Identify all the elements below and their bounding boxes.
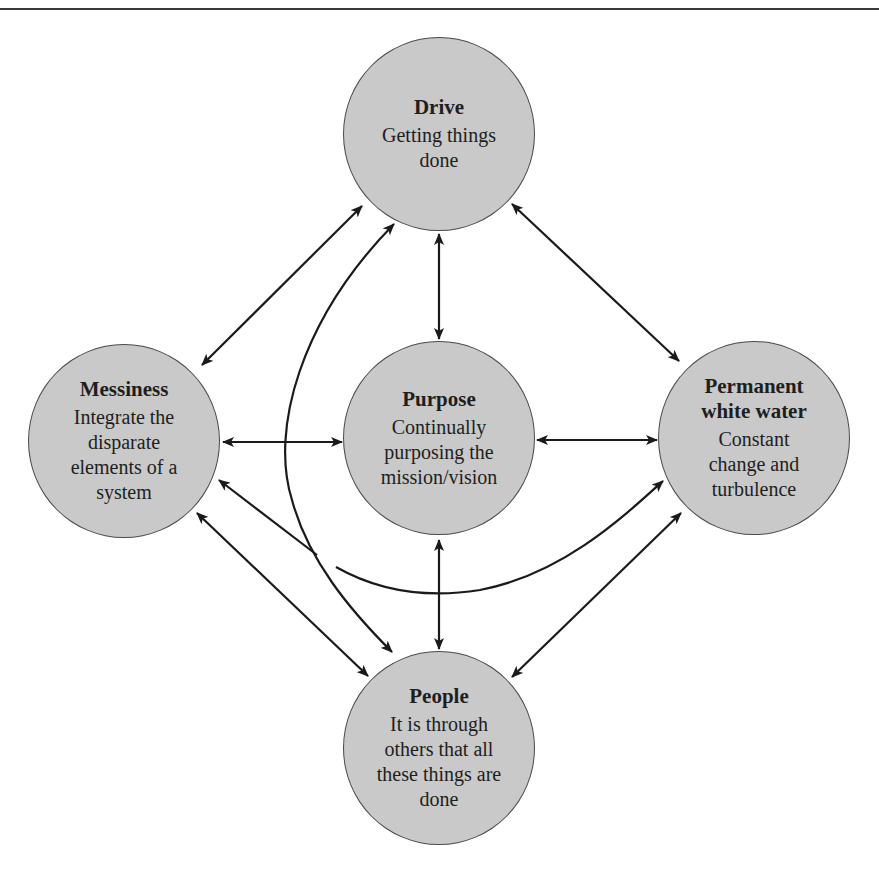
desc-line: disparate: [71, 430, 178, 455]
node-people-desc: It is through others that all these thin…: [369, 712, 509, 812]
node-drive-desc: Getting things done: [374, 123, 504, 173]
desc-line: mission/vision: [381, 465, 498, 490]
edge-messiness-people: [197, 513, 368, 676]
desc-line: turbulence: [709, 477, 800, 502]
node-drive-title: Drive: [414, 95, 464, 120]
edge-drive-messiness: [202, 206, 362, 365]
node-messiness: Messiness Integrate the disparate elemen…: [28, 344, 220, 538]
desc-line: done: [382, 148, 496, 173]
node-people: People It is through others that all the…: [343, 651, 535, 845]
desc-line: Getting things: [382, 123, 496, 148]
desc-line: Continually: [381, 415, 498, 440]
desc-line: purposing the: [381, 440, 498, 465]
desc-line: Integrate the: [71, 405, 178, 430]
node-drive: Drive Getting things done: [343, 37, 535, 231]
title-line: Permanent: [701, 374, 807, 399]
node-messiness-desc: Integrate the disparate elements of a sy…: [63, 405, 186, 505]
desc-line: change and: [709, 452, 800, 477]
title-line: white water: [701, 399, 807, 424]
node-purpose-title: Purpose: [402, 387, 476, 412]
node-purpose: Purpose Continually purposing the missio…: [343, 341, 535, 535]
desc-line: elements of a: [71, 455, 178, 480]
node-people-title: People: [409, 684, 468, 709]
node-pww-title: Permanent white water: [701, 374, 807, 424]
desc-line: system: [71, 480, 178, 505]
node-permanent-white-water: Permanent white water Constant change an…: [658, 341, 850, 535]
desc-line: It is through: [377, 712, 501, 737]
desc-line: these things are: [377, 762, 501, 787]
edge-messiness-pww-curve-a: [219, 480, 317, 555]
node-pww-desc: Constant change and turbulence: [701, 427, 808, 502]
desc-line: done: [377, 787, 501, 812]
desc-line: others that all: [377, 737, 501, 762]
node-purpose-desc: Continually purposing the mission/vision: [373, 415, 506, 490]
desc-line: Constant: [709, 427, 800, 452]
node-messiness-title: Messiness: [80, 377, 169, 402]
edge-drive-pww: [512, 204, 679, 361]
